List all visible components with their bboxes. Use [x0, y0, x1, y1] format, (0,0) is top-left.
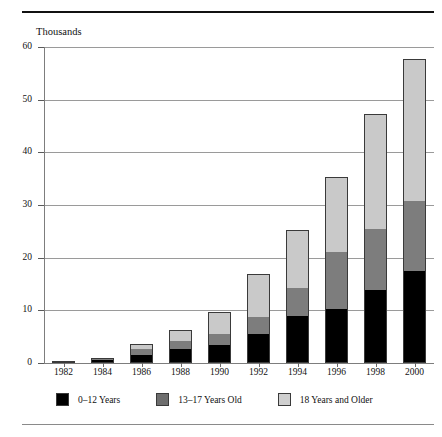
y-axis-tick-label: 30 — [6, 199, 32, 209]
bar-segment — [208, 334, 231, 345]
bar-segment — [403, 201, 426, 272]
bar-segment — [364, 229, 387, 290]
bar-segment — [247, 317, 270, 334]
stacked-bar — [247, 274, 270, 363]
legend-swatch-13-17 — [156, 393, 169, 406]
bar-segment — [169, 341, 192, 349]
bar-segment — [325, 177, 348, 252]
stacked-bar — [286, 230, 309, 363]
y-axis-tick-label: 60 — [6, 41, 32, 51]
x-axis-tick-label: 1996 — [316, 367, 358, 377]
bar-segment — [403, 59, 426, 201]
legend-item: 0–12 Years — [56, 393, 120, 406]
stacked-bar — [208, 312, 231, 363]
legend-item: 13–17 Years Old — [156, 393, 242, 406]
x-axis-tick-label: 1990 — [199, 367, 241, 377]
bar-series-area — [44, 47, 434, 363]
bar-segment — [403, 271, 426, 363]
bar-segment — [286, 230, 309, 288]
x-axis-tick-label: 1992 — [238, 367, 280, 377]
legend-label: 13–17 Years Old — [178, 395, 242, 405]
stacked-bar — [130, 344, 153, 363]
stacked-bar — [325, 177, 348, 363]
legend-label: 18 Years and Older — [300, 395, 373, 405]
chart-legend: 0–12 Years13–17 Years Old18 Years and Ol… — [56, 393, 409, 406]
bar-segment — [130, 355, 153, 363]
y-axis-tick-label: 40 — [6, 146, 32, 156]
y-axis-units-label: Thousands — [36, 26, 82, 37]
legend-swatch-18-plus — [278, 393, 291, 406]
x-axis-tick-label: 1986 — [121, 367, 163, 377]
bar-segment — [169, 349, 192, 363]
legend-label: 0–12 Years — [78, 395, 120, 405]
bottom-rule — [22, 424, 434, 425]
x-axis-tick-label: 2000 — [394, 367, 436, 377]
bar-segment — [364, 290, 387, 363]
bar-segment — [169, 330, 192, 342]
y-axis-tick-label: 50 — [6, 94, 32, 104]
legend-swatch-0-12 — [56, 393, 69, 406]
stacked-bar — [403, 59, 426, 363]
y-axis-tick-label: 10 — [6, 304, 32, 314]
x-axis-tick-label: 1984 — [82, 367, 124, 377]
bar-segment — [325, 309, 348, 363]
bar-segment — [364, 114, 387, 229]
y-axis-tick-label: 20 — [6, 252, 32, 262]
x-axis-tick-label: 1998 — [355, 367, 397, 377]
x-axis-tick-label: 1988 — [160, 367, 202, 377]
x-axis-tick-label: 1982 — [43, 367, 85, 377]
stacked-bar — [169, 330, 192, 363]
y-axis-tick-label: 0 — [6, 357, 32, 367]
bar-segment — [208, 312, 231, 334]
top-rule — [22, 11, 434, 13]
bar-segment — [325, 252, 348, 309]
bar-segment — [247, 274, 270, 317]
bar-segment — [286, 316, 309, 363]
legend-item: 18 Years and Older — [278, 393, 373, 406]
chart-page: Thousands 0102030405060 1982198419861988… — [0, 0, 442, 437]
stacked-bar — [364, 114, 387, 363]
x-axis-tick-label: 1994 — [277, 367, 319, 377]
bar-segment — [286, 288, 309, 315]
bar-segment — [247, 334, 270, 363]
bar-segment — [208, 345, 231, 363]
